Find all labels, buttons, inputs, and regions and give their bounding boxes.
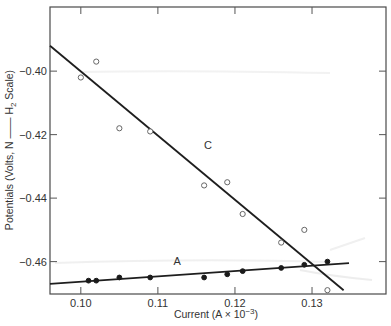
data-point-c — [225, 180, 230, 185]
chart: 0.100.110.120.13 −0.40−0.42−0.44−0.46 CA… — [0, 0, 391, 326]
data-point-a — [117, 275, 122, 280]
series-labels: CA — [173, 139, 212, 268]
x-tick-label: 0.11 — [148, 297, 169, 309]
y-tick-label: −0.40 — [19, 65, 47, 77]
x-tick-label: 0.10 — [70, 297, 91, 309]
y-tick-label: −0.42 — [19, 129, 47, 141]
scatter-plot: 0.100.110.120.13 −0.40−0.42−0.44−0.46 CA… — [0, 0, 391, 326]
series-label-c: C — [204, 139, 212, 151]
data-point-c — [148, 129, 153, 134]
data-point-a — [225, 272, 230, 277]
data-point-c — [94, 59, 99, 64]
y-tick-label: −0.46 — [19, 256, 47, 268]
data-points — [78, 59, 330, 293]
y-axis-title: Potentials (Volts, N —— H2 Scale) — [3, 70, 18, 230]
data-point-c — [202, 183, 207, 188]
y-tick-label: −0.44 — [19, 192, 47, 204]
series-label-a: A — [173, 255, 181, 267]
axes-box — [50, 7, 386, 294]
x-tick-label: 0.13 — [301, 297, 322, 309]
data-point-c — [117, 126, 122, 131]
data-point-c — [302, 227, 307, 232]
x-axis-ticks: 0.100.110.120.13 — [70, 7, 323, 309]
data-point-a — [86, 278, 91, 283]
y-axis-ticks: −0.40−0.42−0.44−0.46 — [19, 65, 386, 267]
fit-line-c — [50, 46, 344, 290]
data-point-c — [325, 288, 330, 293]
data-point-a — [240, 269, 245, 274]
data-point-a — [202, 275, 207, 280]
data-point-a — [94, 278, 99, 283]
data-point-a — [325, 259, 330, 264]
data-point-a — [279, 266, 284, 271]
data-point-c — [78, 75, 83, 80]
data-point-c — [240, 211, 245, 216]
fit-lines — [50, 46, 349, 290]
plot-frame — [50, 7, 386, 294]
background-artifacts — [55, 71, 372, 280]
data-point-a — [302, 262, 307, 267]
data-point-c — [279, 240, 284, 245]
x-axis-title: Current (A × 10−3) — [174, 307, 258, 320]
data-point-a — [148, 275, 153, 280]
